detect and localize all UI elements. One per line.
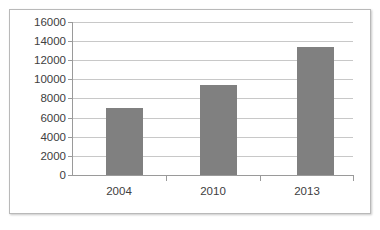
x-axis-separator-tick	[353, 176, 354, 181]
chart-frame: 16000 14000 12000 10000 8000 6000 4000 2…	[9, 9, 371, 214]
gridline	[73, 22, 353, 23]
y-tick-label: 0	[14, 170, 66, 182]
y-tick-label: 2000	[14, 151, 66, 163]
y-tick-label: 16000	[14, 17, 66, 29]
x-tick-label-2010: 2010	[166, 186, 260, 198]
bar-2013	[297, 47, 334, 175]
y-tick-label: 12000	[14, 55, 66, 67]
x-axis-separator-tick	[166, 176, 167, 181]
x-tick-label-2004: 2004	[72, 186, 166, 198]
x-axis-line	[73, 175, 354, 176]
x-axis-separator-tick	[260, 176, 261, 181]
y-tick-label: 14000	[14, 36, 66, 48]
y-tick-label: 6000	[14, 113, 66, 125]
y-tick-label: 8000	[14, 93, 66, 105]
y-axis-tick-labels: 16000 14000 12000 10000 8000 6000 4000 2…	[10, 10, 66, 213]
bar-2010	[200, 85, 237, 175]
plot-area	[73, 22, 353, 175]
x-tick-label-2013: 2013	[260, 186, 354, 198]
y-tick-label: 10000	[14, 74, 66, 86]
bar-2004	[106, 108, 143, 175]
gridline	[73, 41, 353, 42]
y-tick-label: 4000	[14, 132, 66, 144]
